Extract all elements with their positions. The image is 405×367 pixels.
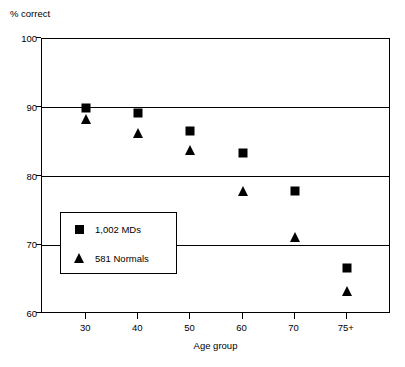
data-point-normals-75+ xyxy=(342,286,352,296)
chart-legend: 1,002 MDs 581 Normals xyxy=(60,212,177,274)
data-point-normals-60 xyxy=(238,186,248,196)
x-tick-label-70: 70 xyxy=(288,322,299,333)
data-point-mds-70 xyxy=(290,186,299,195)
y-tick-mark-90 xyxy=(36,106,41,107)
data-point-mds-40 xyxy=(134,108,143,117)
data-point-mds-50 xyxy=(186,127,195,136)
x-tick-label-30: 30 xyxy=(80,322,91,333)
x-axis-label: Age group xyxy=(41,340,390,351)
y-tick-mark-100 xyxy=(36,37,41,38)
x-tick-mark-50 xyxy=(189,313,190,319)
x-tick-label-75+: 75+ xyxy=(338,322,354,333)
data-point-normals-50 xyxy=(185,145,195,155)
y-tick-mark-80 xyxy=(36,175,41,176)
y-tick-label-100: 100 xyxy=(21,33,37,44)
data-point-mds-30 xyxy=(82,103,91,112)
x-tick-mark-30 xyxy=(85,313,86,319)
x-tick-mark-40 xyxy=(137,313,138,319)
x-tick-label-60: 60 xyxy=(236,322,247,333)
data-point-normals-70 xyxy=(290,232,300,242)
x-tick-mark-75+ xyxy=(346,313,347,319)
legend-label-normals: 581 Normals xyxy=(95,253,149,264)
y-axis-label: % correct xyxy=(10,8,50,19)
data-point-mds-60 xyxy=(238,149,247,158)
x-tick-mark-60 xyxy=(242,313,243,319)
legend-label-mds: 1,002 MDs xyxy=(95,224,141,235)
legend-square-icon xyxy=(67,225,91,234)
chart-figure: % correct 10090807060 304050607075+ Age … xyxy=(0,0,405,367)
legend-triangle-icon xyxy=(67,253,91,263)
x-tick-label-50: 50 xyxy=(184,322,195,333)
gridline-90 xyxy=(42,107,389,108)
data-point-mds-75+ xyxy=(342,263,351,272)
y-axis-tick-labels: 10090807060 xyxy=(8,38,37,313)
data-point-normals-40 xyxy=(133,128,143,138)
gridline-80 xyxy=(42,176,389,177)
x-tick-mark-70 xyxy=(294,313,295,319)
y-tick-mark-60 xyxy=(36,312,41,313)
x-axis-ticks: 304050607075+ xyxy=(41,313,390,343)
x-tick-label-40: 40 xyxy=(132,322,143,333)
y-tick-mark-70 xyxy=(36,244,41,245)
legend-item-mds: 1,002 MDs xyxy=(61,217,176,241)
data-point-normals-30 xyxy=(81,114,91,124)
legend-item-normals: 581 Normals xyxy=(61,246,176,270)
